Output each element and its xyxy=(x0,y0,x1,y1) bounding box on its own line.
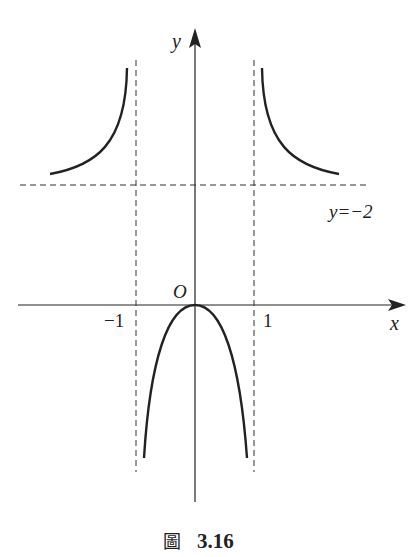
caption-prefix: 圖 xyxy=(163,532,181,552)
caption-number: 3.16 xyxy=(197,529,234,553)
x-tick-one: 1 xyxy=(263,310,273,331)
horizontal-asymptote-label: y=−2 xyxy=(327,201,373,222)
y-axis-label: y xyxy=(170,30,181,53)
x-tick-neg-one: −1 xyxy=(104,310,124,331)
x-axis-label: x xyxy=(389,312,399,334)
origin-label: O xyxy=(173,281,187,302)
function-graph: y x O −1 1 y=−2 圖 3.16 xyxy=(0,0,413,557)
right-upper-branch xyxy=(262,68,339,174)
left-upper-branch xyxy=(50,68,127,174)
